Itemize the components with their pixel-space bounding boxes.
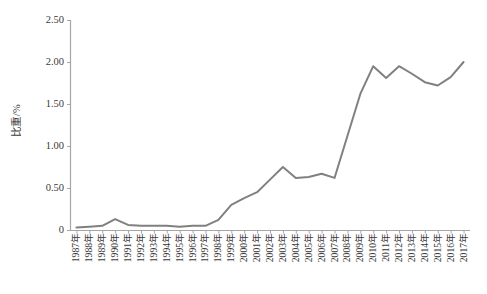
x-axis-tick-label: 2015年: [432, 233, 444, 291]
data-series-line: [70, 20, 470, 230]
x-axis-tick-label-text: 2003年: [278, 233, 288, 262]
y-axis-tick-label: 1.00: [18, 141, 64, 152]
x-axis-tick-labels: 1987年1988年1989年1990年1991年1992年1993年1994年…: [70, 233, 470, 294]
x-axis-tick-label: 2016年: [445, 233, 457, 291]
x-axis-tick-label-text: 1998年: [214, 233, 224, 262]
x-axis-tick-label-text: 2010年: [368, 233, 378, 262]
x-axis-tick-label: 1988年: [83, 233, 95, 291]
x-axis-tick-label-text: 2001年: [252, 233, 262, 262]
x-axis-tick-label: 2002年: [264, 233, 276, 291]
x-axis-tick-label-text: 2002年: [265, 233, 275, 262]
x-axis-tick-label: 1994年: [161, 233, 173, 291]
x-axis-tick-label: 2017年: [458, 233, 470, 291]
line-chart: 比重/% 00.501.001.502.002.50 1987年1988年198…: [0, 0, 487, 294]
y-axis-tick-label: 0.50: [18, 183, 64, 194]
x-axis-tick-label-text: 2004年: [291, 233, 301, 262]
y-axis-tick-label: 2.00: [18, 57, 64, 68]
y-axis-tick-labels: 00.501.001.502.002.50: [14, 0, 64, 294]
x-axis-tick-label-text: 1995年: [175, 233, 185, 262]
x-axis-tick-label: 2007年: [329, 233, 341, 291]
x-axis-tick-label-text: 2000年: [239, 233, 249, 262]
x-axis-tick-label: 1991年: [122, 233, 134, 291]
x-axis-tick-label: 2003年: [277, 233, 289, 291]
x-axis-tick-label: 2006年: [316, 233, 328, 291]
x-axis-tick-label-text: 2011年: [381, 233, 391, 262]
x-axis-tick-label-text: 2012年: [394, 233, 404, 262]
x-axis-tick-label: 1997年: [199, 233, 211, 291]
x-axis-tick-label: 1995年: [174, 233, 186, 291]
x-axis-tick-label: 1996年: [187, 233, 199, 291]
x-axis-tick-label-text: 1996年: [188, 233, 198, 262]
plot-area: [70, 20, 470, 230]
x-axis-tick-label-text: 2014年: [420, 233, 430, 262]
x-axis-tick-label-text: 2017年: [459, 233, 469, 262]
x-axis-tick-label-text: 1994年: [162, 233, 172, 262]
x-axis-tick-label: 2014年: [419, 233, 431, 291]
x-axis-tick-label-text: 2006年: [317, 233, 327, 262]
x-axis-tick-label: 2004年: [290, 233, 302, 291]
x-axis-tick-label: 1998年: [212, 233, 224, 291]
x-axis-tick-label: 2008年: [341, 233, 353, 291]
x-axis-tick-label-text: 1989年: [97, 233, 107, 262]
y-axis-tick-label: 2.50: [18, 15, 64, 26]
x-axis-tick-label: 1990年: [109, 233, 121, 291]
x-axis-tick-label: 1989年: [96, 233, 108, 291]
x-axis-tick-label: 2013年: [406, 233, 418, 291]
y-axis-tick-label: 1.50: [18, 99, 64, 110]
x-axis-tick-label: 2001年: [251, 233, 263, 291]
x-axis-tick-label: 2011年: [380, 233, 392, 291]
x-axis-tick-label-text: 2009年: [356, 233, 366, 262]
x-axis-tick-label: 2000年: [238, 233, 250, 291]
x-axis-tick-label-text: 2013年: [407, 233, 417, 262]
x-axis-tick-label: 2010年: [367, 233, 379, 291]
x-axis-tick-label-text: 2007年: [330, 233, 340, 262]
x-axis-tick-label-text: 1990年: [110, 233, 120, 262]
x-axis-tick-label: 2005年: [303, 233, 315, 291]
x-axis-tick-label: 1992年: [135, 233, 147, 291]
x-axis-tick-label-text: 2005年: [304, 233, 314, 262]
x-axis-tick-label-text: 1992年: [136, 233, 146, 262]
series-polyline: [76, 62, 463, 227]
x-axis-tick-label: 1987年: [70, 233, 82, 291]
x-axis-tick-label: 1993年: [148, 233, 160, 291]
x-axis-tick-label: 2009年: [354, 233, 366, 291]
x-axis-tick-label-text: 2008年: [343, 233, 353, 262]
x-axis-tick-label: 1999年: [225, 233, 237, 291]
x-axis-tick-label-text: 1997年: [201, 233, 211, 262]
x-axis-tick-label: 2012年: [393, 233, 405, 291]
x-axis-tick-label-text: 1987年: [72, 233, 82, 262]
x-axis-tick-label-text: 1993年: [149, 233, 159, 262]
x-axis-tick-label-text: 1991年: [123, 233, 133, 262]
x-axis-tick-label-text: 1988年: [85, 233, 95, 262]
x-axis-tick-label-text: 2016年: [446, 233, 456, 262]
x-axis-tick-label-text: 2015年: [433, 233, 443, 262]
y-axis-tick-label: 0: [18, 225, 64, 236]
x-axis-tick-label-text: 1999年: [226, 233, 236, 262]
